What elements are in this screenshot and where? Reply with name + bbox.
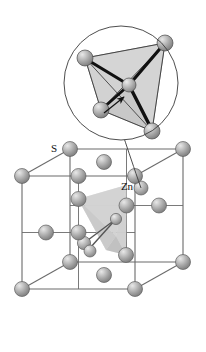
tetrahedral-coordination-inset xyxy=(64,26,178,140)
inset-center-atom xyxy=(122,78,136,92)
sulfur-label: S xyxy=(51,142,57,154)
unit-cell-group: S Zn xyxy=(15,142,191,297)
crystal-structure-figure: S Zn xyxy=(0,0,206,352)
zinc-blende-diagram: S Zn xyxy=(0,0,206,352)
zinc-label: Zn xyxy=(121,180,134,192)
